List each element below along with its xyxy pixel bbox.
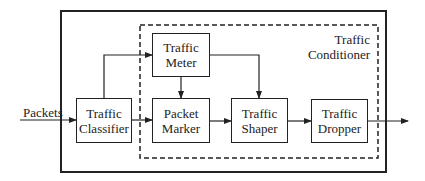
traffic-conditioner-label: Traffic Conditioner: [300, 32, 370, 62]
traffic-conditioner-label-line1: Traffic: [300, 32, 370, 47]
node-label-line2: Classifier: [79, 121, 129, 136]
node-label-line2: Meter: [165, 55, 196, 70]
input-label: Packets: [23, 105, 63, 120]
traffic-shaper-node: Traffic Shaper: [231, 98, 288, 143]
packet-marker-node: Packet Marker: [152, 98, 210, 143]
node-label-line1: Packet: [164, 106, 199, 121]
node-label-line1: Traffic: [86, 106, 121, 121]
traffic-conditioner-label-line2: Conditioner: [300, 47, 370, 62]
traffic-classifier-node: Traffic Classifier: [76, 98, 132, 143]
node-label-line2: Shaper: [241, 121, 277, 136]
meter-to-shaper-arrow: [210, 55, 259, 98]
node-label-line1: Traffic: [322, 106, 357, 121]
node-label-line2: Marker: [162, 121, 200, 136]
classifier-to-meter-arrow: [104, 55, 152, 98]
diagram-lines: [0, 0, 425, 181]
traffic-meter-node: Traffic Meter: [152, 33, 210, 77]
node-label-line1: Traffic: [242, 106, 277, 121]
node-label-line1: Traffic: [163, 40, 198, 55]
node-label-line2: Dropper: [318, 121, 361, 136]
traffic-dropper-node: Traffic Dropper: [311, 99, 368, 143]
